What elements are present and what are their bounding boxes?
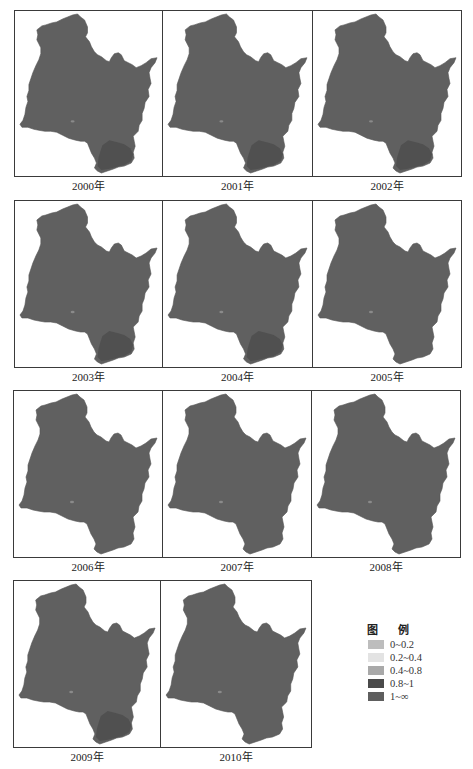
legend-label: 0.4~0.8 — [390, 665, 422, 676]
region-map — [15, 11, 162, 176]
legend-item: 0.2~0.4 — [368, 651, 462, 664]
legend-swatch — [368, 640, 384, 649]
region-map — [312, 391, 460, 557]
year-caption: 2009年 — [13, 751, 161, 763]
region-map — [163, 11, 312, 176]
map-panel — [13, 390, 163, 558]
year-caption: 2003年 — [15, 371, 163, 383]
map-panel — [14, 10, 163, 177]
year-caption: 2010年 — [162, 751, 310, 763]
region-map — [161, 581, 311, 747]
region-map — [14, 581, 160, 747]
map-panel — [312, 10, 462, 177]
region-map — [313, 201, 461, 367]
legend-label: 0.2~0.4 — [390, 652, 422, 663]
year-caption: 2002年 — [313, 180, 461, 192]
year-caption: 2008年 — [312, 561, 460, 573]
legend-title: 图 例 — [367, 624, 462, 638]
map-panel — [13, 580, 161, 748]
region-map — [14, 391, 162, 557]
map-panel — [311, 390, 461, 558]
map-panel — [160, 580, 312, 748]
year-caption: 2006年 — [14, 561, 162, 573]
year-caption: 2005年 — [313, 371, 461, 383]
map-panel — [162, 200, 313, 368]
legend-label: 0.8~1 — [390, 678, 414, 689]
region-map — [15, 201, 162, 367]
map-panel — [162, 390, 312, 558]
legend-item: 0~0.2 — [368, 638, 462, 651]
legend-item: 0.8~1 — [368, 677, 462, 690]
region-map — [313, 11, 461, 176]
legend-item: 1~∞ — [368, 690, 462, 703]
legend-label: 1~∞ — [390, 691, 408, 702]
legend-swatch — [368, 666, 384, 675]
map-panel — [312, 200, 462, 368]
map-panel — [14, 200, 163, 368]
legend-item: 0.4~0.8 — [368, 664, 462, 677]
map-panel — [162, 10, 313, 177]
region-map — [163, 391, 311, 557]
legend-label: 0~0.2 — [390, 639, 414, 650]
region-map — [163, 201, 312, 367]
legend-swatch — [368, 692, 384, 701]
legend-swatch — [368, 679, 384, 688]
legend-swatch — [368, 653, 384, 662]
legend: 图 例 0~0.2 0.2~0.4 0.4~0.8 0.8~1 1~∞ — [362, 624, 462, 703]
year-caption: 2000年 — [15, 180, 163, 192]
year-caption: 2007年 — [163, 561, 311, 573]
year-caption: 2001年 — [164, 180, 312, 192]
year-caption: 2004年 — [164, 371, 312, 383]
